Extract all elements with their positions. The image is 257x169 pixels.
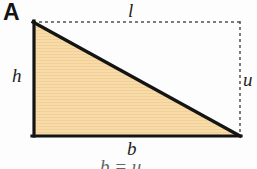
figure-panel-a: A l u h b b = u — [0, 0, 257, 169]
panel-label-a: A — [3, 1, 19, 24]
label-height-h: h — [12, 66, 22, 85]
clipped-formula-text: b = u — [100, 157, 141, 169]
label-length-l: l — [128, 1, 133, 20]
label-base-b: b — [127, 139, 137, 158]
label-upper-u: u — [243, 70, 253, 89]
